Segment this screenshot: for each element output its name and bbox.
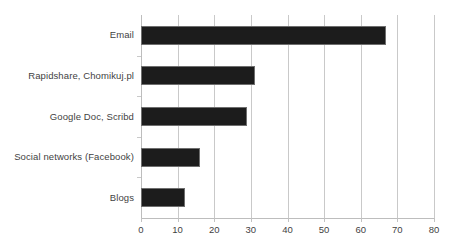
- x-tick-label: 70: [382, 224, 412, 235]
- gridline-40: [288, 15, 289, 218]
- category-label: Email: [0, 29, 134, 40]
- bar: [141, 107, 247, 126]
- category-tick: [137, 137, 141, 138]
- plot-area: [141, 15, 434, 218]
- tick-mark-60: [361, 218, 362, 222]
- category-tick: [137, 96, 141, 97]
- category-label: Blogs: [0, 192, 134, 203]
- tick-mark-80: [434, 218, 435, 222]
- bar: [141, 148, 200, 167]
- x-tick-label: 40: [273, 224, 303, 235]
- tick-mark-10: [178, 218, 179, 222]
- bar: [141, 188, 185, 207]
- gridline-80: [434, 15, 435, 218]
- x-tick-label: 30: [236, 224, 266, 235]
- x-tick-label: 0: [126, 224, 156, 235]
- x-tick-label: 80: [419, 224, 449, 235]
- x-tick-label: 20: [199, 224, 229, 235]
- gridline-70: [397, 15, 398, 218]
- category-axis: EmailRapidshare, Chomikuj.plGoogle Doc, …: [0, 0, 138, 249]
- tick-mark-70: [397, 218, 398, 222]
- tick-mark-20: [214, 218, 215, 222]
- category-label: Google Doc, Scribd: [0, 111, 134, 122]
- category-label: Social networks (Facebook): [0, 151, 134, 162]
- bar: [141, 26, 386, 45]
- gridline-60: [361, 15, 362, 218]
- bar: [141, 66, 255, 85]
- category-label: Rapidshare, Chomikuj.pl: [0, 70, 134, 81]
- gridline-50: [324, 15, 325, 218]
- bar-chart: EmailRapidshare, Chomikuj.plGoogle Doc, …: [0, 0, 458, 249]
- tick-mark-40: [288, 218, 289, 222]
- gridline-30: [251, 15, 252, 218]
- x-tick-label: 60: [346, 224, 376, 235]
- category-tick: [137, 177, 141, 178]
- x-tick-label: 10: [163, 224, 193, 235]
- tick-mark-0: [141, 218, 142, 222]
- tick-mark-30: [251, 218, 252, 222]
- tick-mark-50: [324, 218, 325, 222]
- category-tick: [137, 56, 141, 57]
- x-tick-label: 50: [309, 224, 339, 235]
